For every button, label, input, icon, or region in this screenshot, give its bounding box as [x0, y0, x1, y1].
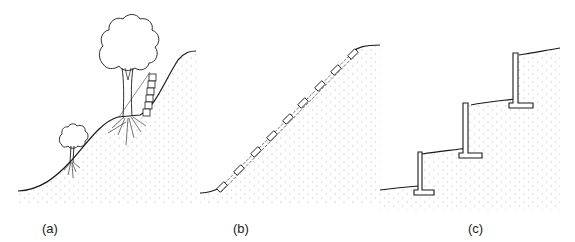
panel-b-label: (b) [233, 221, 249, 236]
soil-fill-c [380, 48, 560, 210]
panel-a-label: (a) [42, 221, 58, 236]
diagram-canvas [0, 0, 575, 242]
panel-c-label: (c) [468, 221, 483, 236]
panel-a [18, 15, 196, 206]
panel-b [200, 45, 380, 205]
soil-fill-b [200, 45, 380, 205]
panel-c [380, 48, 560, 210]
